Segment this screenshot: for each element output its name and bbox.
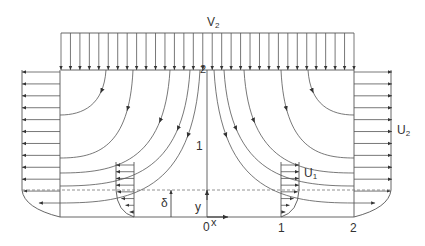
label-station-2-bottom: 2 bbox=[350, 222, 357, 234]
wall-and-axes bbox=[22, 70, 391, 217]
label-delta: δ bbox=[161, 197, 168, 209]
label-station-1-axis: 1 bbox=[196, 140, 203, 152]
label-v2: V2 bbox=[207, 16, 219, 32]
label-y-axis: y bbox=[195, 201, 201, 213]
inner-right-profile bbox=[281, 162, 299, 217]
label-origin: 0 bbox=[203, 221, 210, 233]
right-outflow-profile bbox=[354, 70, 392, 217]
label-u2: U2 bbox=[397, 124, 410, 140]
label-station-2-top: 2 bbox=[200, 63, 206, 75]
label-station-1-bottom: 1 bbox=[278, 222, 285, 234]
left-outflow-profile bbox=[22, 70, 60, 217]
label-x-axis: x bbox=[211, 216, 217, 228]
inner-left-profile bbox=[116, 162, 134, 217]
stagnation-flow-diagram: V2 2 U2 U1 1 δ y 0 x 1 2 bbox=[0, 0, 425, 246]
label-u1: U1 bbox=[304, 167, 317, 183]
diagram-canvas bbox=[0, 0, 425, 246]
top-inflow-arrows bbox=[61, 33, 354, 70]
